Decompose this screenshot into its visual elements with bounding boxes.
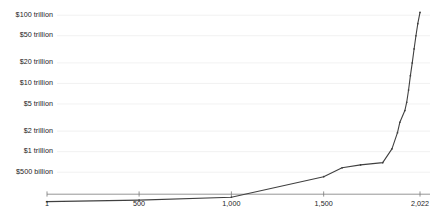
data-point-marker	[382, 162, 384, 164]
data-point-marker	[408, 89, 410, 91]
x-tick-label: 1	[45, 199, 49, 208]
y-tick-label: $50 trillion	[20, 31, 53, 39]
y-tick-label: $2 trillion	[24, 127, 53, 135]
data-point-marker	[406, 101, 408, 103]
y-axis-labels: $500 billion$1 trillion$2 trillion$5 tri…	[0, 0, 53, 216]
data-point-marker	[391, 148, 393, 150]
data-point-marker	[360, 164, 362, 166]
data-point-marker	[341, 167, 343, 169]
y-tick-label: $500 billion	[16, 168, 53, 176]
data-point-marker	[417, 23, 419, 25]
y-tick-label: $10 trillion	[20, 79, 53, 87]
series-markers	[46, 12, 421, 203]
y-tick-label: $5 trillion	[24, 100, 53, 108]
x-tick-label: 2,022	[411, 199, 429, 208]
x-tick-label: 500	[133, 199, 145, 208]
data-point-marker	[399, 121, 401, 123]
data-point-marker	[231, 196, 233, 198]
chart-plot-area	[0, 0, 432, 216]
x-tick-label: 1,500	[315, 199, 333, 208]
y-tick-label: $1 trillion	[24, 147, 53, 155]
series-line-world-gdp	[47, 12, 420, 201]
y-tick-label: $20 trillion	[20, 58, 53, 66]
data-point-marker	[323, 176, 325, 178]
gridlines	[57, 15, 430, 172]
x-tick-label: 1,000	[222, 199, 240, 208]
data-point-marker	[419, 12, 421, 14]
data-point-marker	[410, 75, 412, 77]
data-point-marker	[411, 62, 413, 64]
y-tick-label: $100 trillion	[16, 11, 53, 19]
gdp-log-chart: $500 billion$1 trillion$2 trillion$5 tri…	[0, 0, 432, 216]
data-point-marker	[413, 48, 415, 50]
data-point-marker	[397, 132, 399, 134]
data-point-marker	[415, 35, 417, 37]
data-point-marker	[404, 110, 406, 112]
